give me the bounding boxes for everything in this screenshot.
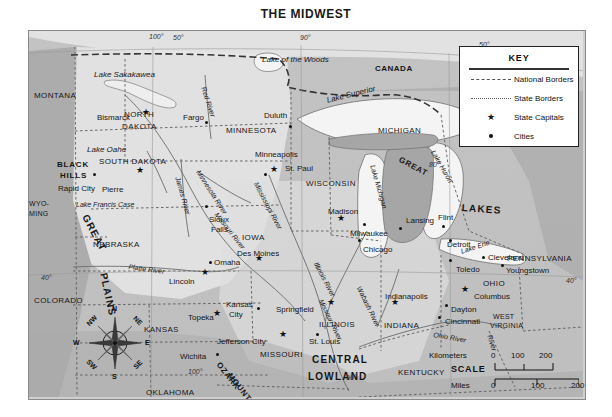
scale-mi-tick-100: 100 — [531, 381, 544, 390]
state-label-montana: MONTANA — [34, 92, 76, 100]
state-label-missouri: MISSOURI — [260, 351, 303, 359]
national-border-dash-icon — [468, 79, 514, 80]
water-label-lake-francis-case: Lake Francis Case — [76, 201, 134, 208]
city-label-sioux: Sioux — [209, 216, 229, 224]
city-dot-cincinnati — [438, 316, 441, 319]
city-dot-minneapolis — [264, 173, 267, 176]
city-label-omaha: Omaha — [214, 259, 240, 267]
compass-label-w: W — [73, 339, 80, 346]
city-label-flint: Flint — [438, 214, 453, 222]
coordinate-label: 40° — [41, 274, 52, 281]
state-label-dakota: DAKOTA — [122, 123, 157, 131]
scale-miles-label: Miles — [451, 381, 470, 390]
water-label-lake-of-the-woods: Lake of the Woods — [262, 56, 329, 64]
state-label-colorado: COLORADO — [34, 297, 83, 305]
city-dot-wichita — [216, 353, 219, 356]
state-label-oklahoma: OKLAHOMA — [146, 389, 195, 397]
city-label-toledo: Toledo — [456, 266, 480, 274]
map-canvas: CANADAMONTANANORTHDAKOTASOUTH DAKOTAMINN… — [28, 30, 586, 400]
city-label-lincoln: Lincoln — [169, 278, 194, 286]
coordinate-label: 90° — [346, 374, 357, 381]
city-dot-rapid-city — [93, 173, 96, 176]
city-dot-lansing — [399, 227, 402, 230]
city-label-columbus: Columbus — [474, 293, 510, 301]
region-label-hills: HILLS — [60, 172, 87, 180]
city-dot-toledo — [449, 259, 452, 262]
city-label-falls: Falls — [211, 226, 228, 234]
key-item-label: State Capitals — [514, 113, 564, 122]
compass-label-s: S — [112, 373, 117, 380]
key-item-label: State Borders — [514, 94, 563, 103]
city-dot-flint — [442, 225, 445, 228]
coordinate-label: 100° — [149, 33, 163, 40]
city-label-kansas: Kansas — [226, 301, 253, 309]
city-dot-kansas — [257, 307, 260, 310]
city-dot-youngstown — [501, 264, 504, 267]
scale-km-tick-100: 100 — [511, 351, 524, 360]
city-dot-sioux — [205, 205, 208, 208]
city-dot-fargo — [205, 121, 208, 124]
map-scale: Kilometers 0 100 200 SCALE Miles 0 100 2… — [429, 349, 579, 391]
city-label-st--louis: St. Louis — [309, 338, 340, 346]
water-label-lake-sakakawea: Lake Sakakawea — [94, 71, 155, 79]
city-label-dayton: Dayton — [451, 306, 476, 314]
state-label-michigan: MICHIGAN — [378, 127, 421, 135]
state-label-indiana: INDIANA — [384, 322, 419, 330]
scale-kilometers-label: Kilometers — [429, 351, 467, 360]
city-dot-milwaukee — [363, 223, 366, 226]
key-heading: KEY — [460, 53, 578, 63]
city-label-milwaukee: Milwaukee — [350, 230, 388, 238]
state-label-wyo-: WYO- — [29, 200, 49, 207]
city-dot-dayton — [445, 304, 448, 307]
state-label-iowa: IOWA — [242, 234, 265, 242]
city-dot-omaha — [209, 261, 212, 264]
city-dot-detroit — [449, 239, 452, 242]
city-label-cleveland: Cleveland — [488, 254, 524, 262]
city-label-bismarck: Bismarck — [97, 114, 130, 122]
city-label-st--paul: St. Paul — [285, 165, 313, 173]
scale-mi-tick-0: 0 — [491, 381, 495, 390]
key-item-label: National Borders — [514, 75, 574, 84]
city-label-wichita: Wichita — [180, 353, 206, 361]
city-dot-duluth — [289, 125, 292, 128]
scale-mi-tick-200: 200 — [571, 381, 584, 390]
city-label-duluth: Duluth — [264, 112, 287, 120]
key-item-national-borders: National Borders — [460, 70, 578, 89]
city-label-detroit: Detroit — [447, 241, 471, 249]
city-dot-st--louis — [316, 333, 319, 336]
city-label-youngstown: Youngstown — [506, 267, 549, 275]
compass-label-e: E — [145, 339, 150, 346]
state-border-dash-icon — [468, 98, 514, 99]
scale-km-tick-0: 0 — [491, 351, 495, 360]
coordinate-label: 50° — [173, 34, 184, 41]
state-label-minnesota: MINNESOTA — [226, 127, 277, 135]
city-label-pierre: Pierre — [102, 186, 123, 194]
country-label-canada: CANADA — [375, 65, 413, 73]
city-label-chicago: Chicago — [363, 246, 392, 254]
map-key: KEY National Borders State Borders ★ Sta… — [459, 46, 579, 147]
star-icon: ★ — [468, 113, 514, 122]
state-label-south-dakota: SOUTH DAKOTA — [99, 158, 166, 166]
page-title: THE MIDWEST — [0, 7, 612, 21]
city-label-topeka: Topeka — [188, 314, 214, 322]
key-item-cities: Cities — [460, 127, 578, 146]
city-dot-chicago — [358, 239, 361, 242]
key-item-state-capitals: ★ State Capitals — [460, 108, 578, 127]
city-label-cincinnati: Cincinnati — [445, 318, 480, 326]
city-label-city: City — [229, 311, 243, 319]
key-item-label: Cities — [514, 132, 534, 141]
state-label-west: WEST — [493, 313, 514, 320]
city-label-springfield: Springfield — [276, 306, 314, 314]
coordinate-label: 40° — [566, 277, 577, 284]
city-label-fargo: Fargo — [183, 114, 204, 122]
region-label-lowland: LOWLAND — [308, 372, 368, 382]
key-item-state-borders: State Borders — [460, 89, 578, 108]
state-label-wisconsin: WISCONSIN — [306, 180, 356, 188]
state-label-tennessee: TENNESSEE — [464, 399, 516, 400]
state-label-ohio: OHIO — [483, 280, 505, 288]
compass-rose: N S E W NE NW SE SW — [85, 313, 145, 373]
scale-km-tick-200: 200 — [539, 351, 552, 360]
water-label-lake-oahe: Lake Oahe — [87, 146, 126, 154]
compass-label-n: N — [112, 305, 117, 312]
coordinate-label: 90° — [300, 34, 311, 41]
